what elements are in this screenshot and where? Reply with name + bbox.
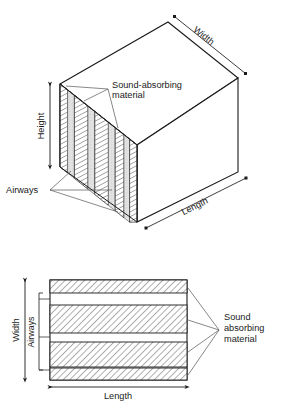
plan-absorber-label-line2: absorbing bbox=[224, 323, 264, 333]
figure-root: Width Height Length Sound-absorbing mate… bbox=[0, 0, 282, 411]
plan-absorber-label-line1: Sound bbox=[224, 312, 251, 322]
plan-airways-label: Airways bbox=[26, 316, 36, 348]
plan-absorber-leader-lines bbox=[188, 288, 219, 375]
diagram-canvas: Width Height Length Sound-absorbing mate… bbox=[0, 0, 282, 411]
absorber-slab bbox=[60, 84, 68, 173]
airways-label: Airways bbox=[6, 185, 39, 195]
airway-gap bbox=[68, 90, 75, 178]
plan-width-label: Width bbox=[11, 318, 21, 342]
plan-airways-bracket bbox=[39, 293, 50, 370]
airway-gap bbox=[88, 106, 95, 194]
absorber-band bbox=[50, 280, 187, 293]
plan-section-view: Width Airways Length Sound absorbing ma bbox=[11, 280, 264, 401]
airway-gap bbox=[108, 122, 115, 210]
absorber-band bbox=[50, 368, 187, 380]
absorber-label-line1: Sound-absorbing bbox=[112, 80, 182, 90]
absorber-slab bbox=[115, 128, 124, 218]
absorber-slab bbox=[74, 95, 88, 189]
isometric-duct-view: Width Height Length Sound-absorbing mate… bbox=[6, 17, 246, 229]
absorber-band bbox=[50, 305, 187, 333]
absorber-band bbox=[50, 342, 187, 367]
absorber-label-line2: material bbox=[112, 90, 145, 100]
plan-length-label: Length bbox=[104, 391, 132, 401]
airway-gap bbox=[124, 135, 130, 222]
plan-absorber-label-line3: material bbox=[224, 334, 257, 344]
absorber-slab bbox=[95, 112, 109, 206]
height-label: Height bbox=[36, 112, 46, 139]
absorber-slab bbox=[130, 139, 137, 222]
